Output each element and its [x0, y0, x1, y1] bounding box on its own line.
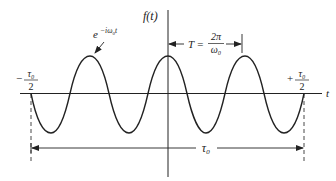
right-bound-sign: + — [287, 72, 293, 84]
left-bound-numerator: τ₀ — [27, 68, 35, 79]
t-axis-label: t — [326, 87, 330, 99]
duration-label: τ₀ — [202, 141, 210, 155]
right-bound-denominator: 2 — [300, 81, 305, 92]
period-label-lhs: T = — [188, 38, 204, 50]
left-bound-denominator: 2 — [29, 81, 34, 92]
f-axis-label: f(t) — [143, 9, 158, 23]
period-numerator: 2π — [211, 31, 222, 42]
period-label-text: T = — [188, 38, 204, 50]
wave-label-exponent: −iω₀t — [100, 26, 118, 35]
period-denominator: ω₀ — [211, 44, 222, 55]
right-bound-numerator: τ₀ — [298, 68, 306, 79]
wave-label-base: e — [93, 28, 98, 40]
left-bound-sign: − — [16, 72, 22, 84]
wave-train-diagram: τ₀ T = 2π ω₀ f(t) t e −iω₀t − τ₀ 2 + τ₀ … — [0, 0, 336, 181]
wave-label-pointer — [95, 42, 104, 53]
